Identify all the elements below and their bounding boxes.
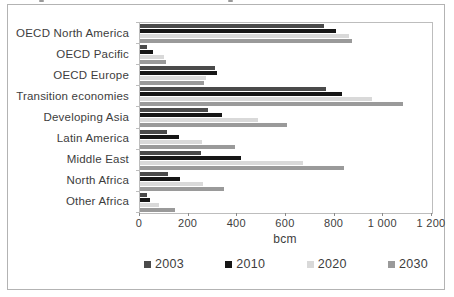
- x-tick-mark: [188, 213, 189, 216]
- category-label: Developing Asia: [12, 106, 135, 127]
- category-label: OECD Europe: [12, 64, 135, 85]
- figure-box: OECD North AmericaOECD PacificOECD Europ…: [7, 4, 445, 290]
- bar-2003: [140, 172, 168, 176]
- category-label: Latin America: [12, 128, 135, 149]
- bar-2010: [140, 135, 179, 139]
- bar-2003: [140, 193, 147, 197]
- cropped-caption-remnant: [39, 0, 44, 2]
- bar-2003: [140, 45, 147, 49]
- category-row: [140, 86, 432, 107]
- x-tick-mark: [334, 213, 335, 216]
- category-row: [140, 150, 432, 171]
- bar-2010: [140, 92, 342, 96]
- category-axis-tick: [136, 85, 139, 86]
- bar-2030: [140, 166, 344, 170]
- category-row: [140, 44, 432, 65]
- category-row: [140, 171, 432, 192]
- category-axis-tick: [136, 106, 139, 107]
- x-tick-label: 400: [227, 217, 246, 229]
- bar-2010: [140, 156, 241, 160]
- x-axis-title: bcm: [139, 232, 431, 246]
- category-label: OECD Pacific: [12, 43, 135, 64]
- bar-2010: [140, 29, 336, 33]
- bar-2010: [140, 177, 180, 181]
- category-axis-tick: [136, 149, 139, 150]
- legend: 2003201020202030: [144, 257, 428, 271]
- category-axis-tick: [136, 212, 139, 213]
- bar-2010: [140, 113, 222, 117]
- legend-swatch-icon: [307, 261, 314, 268]
- legend-label: 2010: [236, 257, 265, 271]
- cropped-caption-remnant: [228, 0, 233, 2]
- category-axis-tick: [136, 191, 139, 192]
- x-tick-mark: [382, 213, 383, 216]
- bar-2030: [140, 123, 287, 127]
- category-row: [140, 192, 432, 213]
- x-tick-mark: [139, 213, 140, 216]
- bar-2020: [140, 140, 202, 144]
- bar-2030: [140, 145, 235, 149]
- category-row: [140, 129, 432, 150]
- legend-item: 2010: [225, 257, 265, 271]
- legend-label: 2030: [399, 257, 428, 271]
- bar-2010: [140, 50, 153, 54]
- x-tick-mark: [236, 213, 237, 216]
- category-label: Transition economies: [12, 85, 135, 106]
- bar-2020: [140, 161, 303, 165]
- bar-2030: [140, 208, 175, 212]
- legend-swatch-icon: [225, 261, 232, 268]
- legend-label: 2003: [155, 257, 184, 271]
- bar-2020: [140, 76, 206, 80]
- bar-2020: [140, 34, 349, 38]
- bar-2020: [140, 182, 203, 186]
- category-label: OECD North America: [12, 22, 135, 43]
- legend-item: 2003: [144, 257, 184, 271]
- bar-2030: [140, 102, 403, 106]
- bar-2003: [140, 87, 326, 91]
- bar-2020: [140, 97, 372, 101]
- bar-2010: [140, 71, 217, 75]
- category-label: Middle East: [12, 149, 135, 170]
- bar-2010: [140, 198, 150, 202]
- legend-label: 2020: [318, 257, 347, 271]
- bar-2020: [140, 203, 159, 207]
- x-tick-label: 1 200: [416, 217, 445, 229]
- bar-2003: [140, 66, 215, 70]
- x-tick-label: 1 000: [368, 217, 397, 229]
- plot-area: [139, 22, 433, 214]
- category-row: [140, 23, 432, 44]
- bar-2003: [140, 108, 208, 112]
- bar-2020: [140, 55, 164, 59]
- bar-2030: [140, 60, 166, 64]
- x-tick-label: 600: [275, 217, 294, 229]
- category-axis-labels: OECD North AmericaOECD PacificOECD Europ…: [12, 22, 135, 212]
- x-tick-label: 200: [178, 217, 197, 229]
- legend-item: 2030: [388, 257, 428, 271]
- legend-swatch-icon: [144, 261, 151, 268]
- category-row: [140, 65, 432, 86]
- x-tick-label: 0: [136, 217, 142, 229]
- bar-2003: [140, 130, 167, 134]
- category-row: [140, 107, 432, 128]
- legend-item: 2020: [307, 257, 347, 271]
- bar-2030: [140, 39, 352, 43]
- bar-2030: [140, 81, 204, 85]
- x-tick-mark: [431, 213, 432, 216]
- bar-rows: [140, 23, 432, 213]
- category-label: Other Africa: [12, 191, 135, 212]
- bar-2003: [140, 151, 201, 155]
- bar-2020: [140, 118, 258, 122]
- category-label: North Africa: [12, 170, 135, 191]
- category-axis-tick: [136, 43, 139, 44]
- bar-2030: [140, 187, 224, 191]
- category-axis-tick: [136, 128, 139, 129]
- legend-swatch-icon: [388, 261, 395, 268]
- x-tick-mark: [285, 213, 286, 216]
- category-axis-tick: [136, 64, 139, 65]
- category-axis-tick: [136, 170, 139, 171]
- category-axis-tick: [136, 22, 139, 23]
- bar-2003: [140, 24, 324, 28]
- x-tick-label: 800: [324, 217, 343, 229]
